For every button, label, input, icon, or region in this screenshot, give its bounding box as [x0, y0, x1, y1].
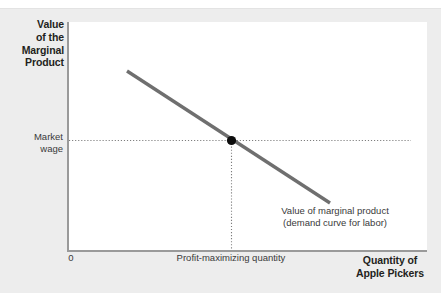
x-axis-title: Quantity of Apple Pickers	[340, 254, 440, 280]
origin-label: 0	[62, 252, 80, 264]
value-of-marginal-product-annotation: Value of marginal product (demand curve …	[262, 205, 408, 228]
profit-maximizing-quantity-label: Profit-maximizing quantity	[151, 252, 311, 264]
y-axis-title: Value of the Marginal Product	[0, 18, 64, 69]
market-wage-label: Market wage	[0, 131, 63, 154]
economics-figure: Value of the Marginal Product Market wag…	[0, 0, 441, 293]
y-axis-line	[67, 22, 69, 252]
